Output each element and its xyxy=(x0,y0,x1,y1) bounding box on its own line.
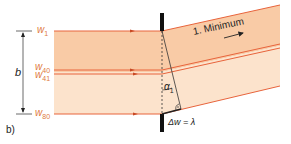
angle-label-sub: 1 xyxy=(170,87,174,94)
label-w1: w1 xyxy=(37,24,48,37)
width-label: b xyxy=(15,66,21,78)
diffraction-diagram: w1 w40 w41 w80 b 1. Minimum α1 Δw = λ b) xyxy=(0,0,291,144)
path-difference-label: Δw = λ xyxy=(168,117,195,127)
label-w80: w80 xyxy=(35,107,50,120)
label-w41: w41 xyxy=(35,69,50,82)
slit-edge-bottom xyxy=(160,114,164,132)
width-dim-arrow-down xyxy=(21,108,25,113)
label-w1-sub: 1 xyxy=(44,30,48,37)
incoming-band-upper xyxy=(54,31,162,72)
angle-label: α1 xyxy=(164,81,174,94)
width-dim-arrow-up xyxy=(21,32,25,37)
incoming-band-lower xyxy=(54,72,162,114)
slit-edge-top xyxy=(160,13,164,31)
right-angle-dot xyxy=(177,106,178,107)
panel-label: b) xyxy=(6,124,15,135)
label-w80-sub: 80 xyxy=(42,113,50,120)
label-w41-sub: 41 xyxy=(42,75,50,82)
